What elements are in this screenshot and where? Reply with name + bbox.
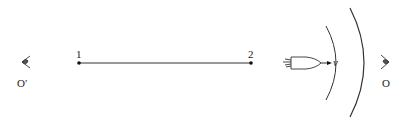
eye-icon-left-observer [22, 56, 30, 68]
velocity-arrow-icon [321, 61, 332, 65]
point-1-label: 1 [76, 49, 82, 60]
point-2-dot [249, 61, 253, 65]
diagram-canvas [0, 0, 412, 123]
velocity-label: v [333, 57, 338, 68]
observer-right-label: O [382, 78, 390, 89]
rocket-icon [283, 57, 321, 69]
point-1-dot [77, 61, 81, 65]
observer-left-label: O′ [17, 78, 27, 89]
wavefront-outer [350, 8, 364, 117]
point-2-label: 2 [248, 49, 254, 60]
eye-icon-right-observer [381, 55, 389, 69]
